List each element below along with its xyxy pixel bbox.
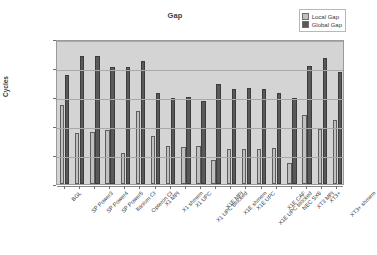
chart-legend: Local Gap Global Gap xyxy=(299,9,346,32)
x-tick-mark xyxy=(306,186,307,189)
gridline xyxy=(57,157,343,158)
x-tick-mark xyxy=(139,186,140,189)
bar-global-gap xyxy=(171,98,175,184)
bar-global-gap xyxy=(156,93,160,184)
x-tick-mark xyxy=(336,186,337,189)
bar-global-gap xyxy=(323,58,327,184)
bar-local-gap xyxy=(60,105,64,184)
legend-item-global-gap: Global Gap xyxy=(302,21,342,28)
bar-local-gap xyxy=(257,149,261,184)
bar-global-gap xyxy=(277,93,281,184)
x-tick-mark xyxy=(124,186,125,189)
x-tick-mark xyxy=(170,186,171,189)
legend-label-global-gap: Global Gap xyxy=(312,22,342,28)
bar-global-gap xyxy=(65,75,69,184)
bar-global-gap xyxy=(201,101,205,184)
x-tick-mark xyxy=(109,186,110,189)
y-tick-mark xyxy=(53,156,56,157)
y-tick-mark xyxy=(53,69,56,70)
x-tick-mark xyxy=(215,186,216,189)
legend-swatch-global-gap xyxy=(302,21,309,28)
bar-global-gap xyxy=(262,89,266,184)
bar-local-gap xyxy=(272,148,276,184)
y-tick-mark xyxy=(53,40,56,41)
y-tick-mark xyxy=(53,127,56,128)
x-tick-mark xyxy=(64,186,65,189)
x-tick-mark xyxy=(276,186,277,189)
bar-global-gap xyxy=(80,56,84,184)
bar-global-gap xyxy=(95,56,99,184)
bar-local-gap xyxy=(90,132,94,184)
bar-global-gap xyxy=(141,61,145,184)
bar-local-gap xyxy=(181,147,185,184)
chart-title: Gap xyxy=(0,11,350,20)
bar-global-gap xyxy=(247,88,251,184)
gridline xyxy=(57,128,343,129)
legend-label-local-gap: Local Gap xyxy=(312,14,339,20)
x-axis-label: XT3+ shmem xyxy=(349,190,377,218)
bar-local-gap xyxy=(287,163,291,184)
y-tick-mark xyxy=(53,98,56,99)
bar-global-gap xyxy=(186,97,190,184)
gridline xyxy=(57,99,343,100)
legend-swatch-local-gap xyxy=(302,13,309,20)
bar-local-gap xyxy=(75,133,79,184)
bar-local-gap xyxy=(227,149,231,184)
bar-global-gap xyxy=(292,98,296,184)
x-tick-mark xyxy=(291,186,292,189)
x-tick-mark xyxy=(261,186,262,189)
bar-local-gap xyxy=(302,115,306,184)
bar-local-gap xyxy=(166,146,170,184)
gridline xyxy=(57,70,343,71)
plot-area xyxy=(56,40,344,185)
gridline xyxy=(57,41,343,42)
x-tick-mark xyxy=(185,186,186,189)
bar-local-gap xyxy=(333,120,337,184)
bars-layer xyxy=(57,41,343,184)
x-tick-mark xyxy=(94,186,95,189)
bar-local-gap xyxy=(211,160,215,184)
bar-local-gap xyxy=(196,146,200,184)
bar-global-gap xyxy=(110,67,114,184)
bar-local-gap xyxy=(151,136,155,184)
y-axis-title: Cycles xyxy=(2,76,9,97)
x-axis-labels: BGLSP Power3SP Power4SP Power5Itanium CI… xyxy=(56,186,344,255)
x-tick-mark xyxy=(155,186,156,189)
x-tick-mark xyxy=(321,186,322,189)
bar-global-gap xyxy=(232,89,236,184)
x-tick-mark xyxy=(79,186,80,189)
bar-global-gap xyxy=(307,66,311,184)
x-tick-mark xyxy=(245,186,246,189)
x-tick-mark xyxy=(200,186,201,189)
legend-item-local-gap: Local Gap xyxy=(302,13,342,20)
x-axis-label: BGL xyxy=(70,190,82,202)
bar-local-gap xyxy=(242,149,246,184)
bar-global-gap xyxy=(126,67,130,184)
x-tick-mark xyxy=(230,186,231,189)
bar-local-gap xyxy=(136,111,140,184)
